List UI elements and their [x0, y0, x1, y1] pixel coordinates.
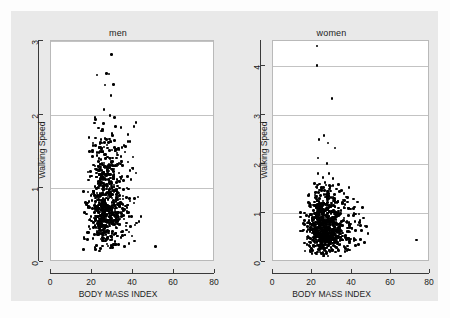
data-point [346, 201, 349, 204]
data-point [124, 234, 127, 237]
data-point [343, 206, 346, 209]
x-tick-label: 20 [301, 277, 321, 287]
x-tick-label: 0 [40, 277, 60, 287]
data-point [123, 245, 126, 248]
data-point [367, 232, 370, 235]
data-point [128, 231, 131, 234]
data-point [91, 199, 94, 202]
data-point [322, 176, 325, 179]
data-point [319, 225, 322, 228]
data-point [97, 127, 100, 130]
data-point [104, 165, 107, 168]
data-point [328, 226, 331, 229]
data-point [99, 177, 102, 180]
data-point [307, 221, 310, 224]
data-point [119, 223, 122, 226]
data-point [113, 233, 116, 236]
gridline-y [273, 164, 428, 165]
data-point [340, 209, 343, 212]
data-point [127, 161, 130, 164]
data-point [128, 242, 131, 245]
data-point [92, 221, 95, 224]
data-point [309, 241, 312, 244]
data-point [336, 231, 339, 234]
data-point [91, 155, 94, 158]
panel-title-men: men [11, 28, 225, 38]
data-point [87, 171, 90, 174]
panel-title-women: women [225, 28, 438, 38]
data-point [110, 94, 113, 97]
data-point [347, 214, 350, 217]
data-point [104, 178, 107, 181]
x-tick-label: 40 [341, 277, 361, 287]
data-point [359, 224, 362, 227]
data-point [120, 231, 123, 234]
y-tick-label: 4 [252, 65, 262, 79]
data-point [299, 211, 302, 214]
data-point [111, 220, 114, 223]
data-point [327, 255, 330, 258]
x-axis-line [272, 273, 429, 274]
data-point [312, 222, 315, 225]
data-point [332, 177, 335, 180]
data-point [134, 224, 137, 227]
x-axis-label-women: BODY MASS INDEX [225, 289, 438, 299]
data-point [314, 191, 317, 194]
data-point [88, 206, 91, 209]
data-point [302, 222, 305, 225]
data-point [320, 211, 323, 214]
data-point [95, 244, 98, 247]
data-point [358, 221, 361, 224]
data-point [362, 217, 365, 220]
data-point [323, 134, 326, 137]
data-point [359, 238, 362, 241]
data-point [115, 181, 118, 184]
data-point [130, 215, 133, 218]
gridline-y [273, 213, 428, 214]
data-point [138, 220, 141, 223]
x-tick [91, 269, 92, 273]
data-point [332, 200, 335, 203]
data-point [100, 147, 103, 150]
data-point [340, 189, 343, 192]
data-point [330, 212, 333, 215]
data-point [121, 164, 124, 167]
data-point [83, 211, 86, 214]
data-point [94, 197, 97, 200]
data-point [94, 118, 97, 121]
data-point [103, 141, 106, 144]
data-point [135, 172, 138, 175]
data-point [135, 121, 138, 124]
x-tick [351, 269, 352, 273]
data-point [324, 230, 327, 233]
data-point [94, 248, 97, 251]
gridline-y [273, 115, 428, 116]
data-point [124, 145, 127, 148]
data-point [122, 188, 125, 191]
data-point [104, 211, 107, 214]
data-point [346, 230, 349, 233]
data-point [306, 230, 309, 233]
data-point [330, 249, 333, 252]
data-point [332, 184, 335, 187]
data-point [352, 207, 355, 210]
panel-men: men 0204060800123 BODY MASS INDEX Walkin… [11, 11, 225, 301]
data-point [357, 243, 360, 246]
data-point [324, 225, 327, 228]
data-point [132, 156, 135, 159]
data-point [317, 215, 320, 218]
data-point [122, 195, 125, 198]
data-point [313, 182, 316, 185]
y-axis-label-men: Walking Speed [37, 110, 47, 190]
plot-area-women [272, 40, 429, 261]
data-point [324, 181, 327, 184]
data-point [307, 194, 310, 197]
y-tick-label: 3 [30, 40, 40, 54]
data-point [99, 150, 102, 153]
data-point [299, 230, 302, 233]
x-tick [390, 269, 391, 273]
data-point [97, 198, 100, 201]
data-point [334, 147, 337, 150]
data-point [324, 250, 327, 253]
data-point [99, 227, 102, 230]
